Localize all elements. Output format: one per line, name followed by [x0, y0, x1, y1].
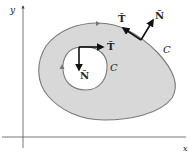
inner-curve-label: C [110, 62, 118, 73]
outer-normal-label: N̂ [155, 10, 164, 21]
inner-normal-label: N̂ [80, 70, 89, 81]
outer-tangent-label: T̂ [118, 13, 126, 24]
y-axis-label: y [9, 5, 16, 15]
outer-normal-arrow [141, 20, 153, 40]
diagram-canvas: y x T̂ N̂ C T̂ N̂ C [0, 0, 189, 155]
inner-tangent-label: T̂ [107, 41, 115, 52]
x-axis-label: x [183, 144, 188, 153]
region-diagram: y x T̂ N̂ C T̂ N̂ C [0, 0, 189, 155]
annular-region [39, 23, 176, 120]
outer-curve-label: C [163, 44, 171, 55]
